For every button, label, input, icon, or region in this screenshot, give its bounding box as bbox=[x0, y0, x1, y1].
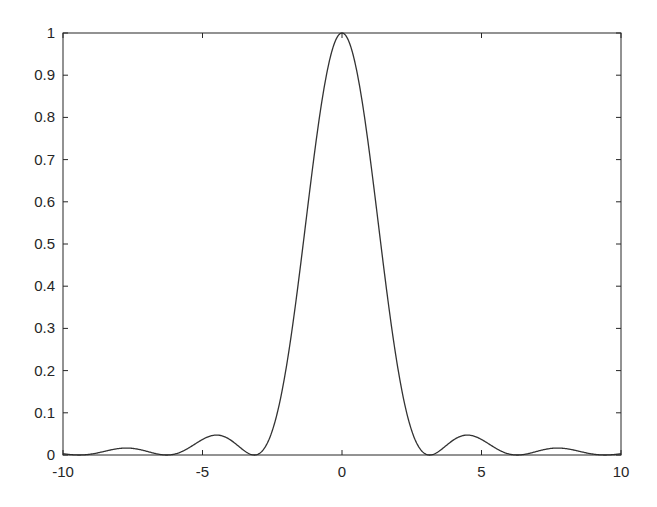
x-tick-label: 10 bbox=[613, 463, 630, 480]
x-tick-label: -5 bbox=[196, 463, 209, 480]
y-tick-label: 0 bbox=[47, 446, 55, 463]
y-tick-label: 1 bbox=[47, 24, 55, 41]
y-tick-label: 0.4 bbox=[34, 277, 55, 294]
y-tick-label: 0.6 bbox=[34, 193, 55, 210]
x-tick-label: -10 bbox=[52, 463, 74, 480]
x-tick-label: 0 bbox=[338, 463, 346, 480]
y-tick-label: 0.5 bbox=[34, 235, 55, 252]
line-chart: 00.10.20.30.40.50.60.70.80.91 -10-50510 bbox=[0, 0, 657, 507]
y-tick-label: 0.2 bbox=[34, 362, 55, 379]
y-tick-label: 0.8 bbox=[34, 108, 55, 125]
y-tick-label: 0.1 bbox=[34, 404, 55, 421]
y-tick-label: 0.3 bbox=[34, 319, 55, 336]
plot-area bbox=[63, 33, 621, 455]
y-tick-label: 0.7 bbox=[34, 151, 55, 168]
x-tick-label: 5 bbox=[477, 463, 485, 480]
y-tick-label: 0.9 bbox=[34, 66, 55, 83]
